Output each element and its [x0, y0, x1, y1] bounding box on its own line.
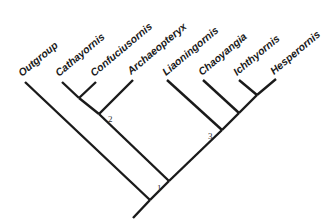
node-label-1: 1 [157, 183, 162, 193]
cladogram: Outgroup Cathayornis Confuciusornis Arch… [0, 0, 335, 224]
root-branch [133, 200, 150, 218]
stem-to-ichthyornis-hesperornis-node [239, 95, 257, 113]
taxon-label-confuciusornis: Confuciusornis [88, 20, 155, 79]
branch-liaoningornis [167, 80, 222, 130]
stem-node3-to-chaoyangia-node [222, 113, 239, 130]
node-label-2: 2 [108, 114, 113, 124]
branch-ichthyornis [239, 80, 257, 95]
taxon-label-outgroup: Outgroup [16, 38, 61, 78]
branch-chaoyangia [203, 80, 239, 113]
taxon-label-archaeopteryx: Archaeopteryx [124, 19, 190, 77]
branch-confuciusornis [79, 82, 96, 98]
branch-node1-to-node2 [99, 114, 169, 181]
branch-archaeopteryx [99, 80, 133, 114]
branch-outgroup [25, 82, 150, 200]
branch-node2-to-cathayornis-node [79, 98, 99, 114]
branch-cathayornis [62, 82, 79, 98]
branch-hesperornis [257, 79, 276, 95]
stem-node1-to-node3 [169, 130, 222, 181]
node-label-3: 3 [208, 131, 213, 141]
